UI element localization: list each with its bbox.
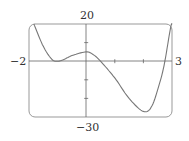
viewing-rectangle xyxy=(29,24,172,117)
graph: 20 −30 −2 3 xyxy=(0,0,189,141)
x-max-label: 3 xyxy=(175,55,182,68)
y-min-label: −30 xyxy=(76,121,99,134)
y-max-label: 20 xyxy=(80,9,94,22)
function-curve xyxy=(34,24,172,112)
tick-marks xyxy=(84,43,143,99)
x-min-label: −2 xyxy=(10,55,26,68)
